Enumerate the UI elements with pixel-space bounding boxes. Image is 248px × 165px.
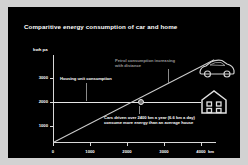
x-tick-label: 3000 [152,149,176,154]
crossover-marker [138,99,144,105]
house-annotation-leader [86,83,87,101]
y-tick-label: 3000 [26,75,48,80]
crossover-annotation-line2: consume more energy than an average hous… [104,120,195,125]
house-icon [200,89,228,115]
x-tick-mark [90,143,91,146]
x-tick-label: 2000 [115,149,139,154]
crossover-annotation: Cars driven over 2400 km a year (6.6 km … [104,115,195,125]
x-axis-line [53,142,216,143]
house-annotation: Housing unit consumption [60,76,112,81]
crossover-annotation-leader [139,106,140,114]
x-axis-unit-label: km [208,149,214,154]
x-tick-label: 1000 [78,149,102,154]
petrol-annotation-line2: with distance [115,63,175,68]
y-tick-label: 1000 [26,123,48,128]
y-tick-label: 2000 [26,99,48,104]
page-title: Comparitive energy consumption of car an… [24,23,177,30]
y-axis-label: kwh pa [33,47,48,52]
x-tick-mark [201,143,202,146]
car-icon [196,57,236,79]
petrol-annotation: Petrol consumption increasing with dista… [115,58,175,68]
petrol-annotation-leader [168,69,169,83]
y-axis-line [53,55,54,142]
chart-frame: Comparitive energy consumption of car an… [0,0,248,165]
y-tick-mark [50,78,53,79]
house-annotation-text: Housing unit consumption [60,76,112,81]
x-tick-label: 0 [41,149,65,154]
y-tick-mark [50,126,53,127]
x-tick-mark [164,143,165,146]
x-tick-mark [127,143,128,146]
x-tick-mark [53,143,54,146]
chart-panel: Comparitive energy consumption of car an… [8,7,240,158]
